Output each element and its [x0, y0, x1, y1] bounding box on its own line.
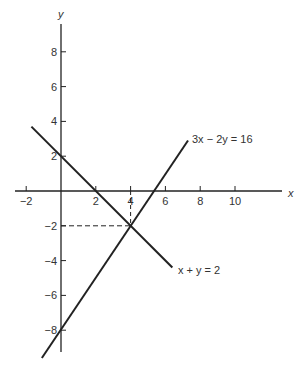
y-tick-label: 8 — [51, 46, 57, 58]
chart: −22468108642−2−4−6−8 y x 3x − 2y = 16 x … — [0, 0, 302, 367]
y-tick-label: −2 — [44, 220, 57, 232]
x-tick-label: 8 — [197, 195, 203, 207]
x-tick-label: 6 — [162, 195, 168, 207]
x-tick-label: 2 — [93, 195, 99, 207]
line-label-3x-2y-16: 3x − 2y = 16 — [192, 133, 253, 145]
y-tick-label: 6 — [51, 81, 57, 93]
x-tick-label: 10 — [229, 195, 241, 207]
y-tick-label: 4 — [51, 115, 57, 127]
y-axis-label: y — [57, 8, 65, 20]
labels: y x 3x − 2y = 16 x + y = 2 — [57, 8, 294, 276]
axes — [15, 24, 282, 352]
y-tick-label: −4 — [44, 255, 57, 267]
y-tick-label: −8 — [44, 324, 57, 336]
x-tick-label: −2 — [20, 195, 33, 207]
line-label-x-y-2: x + y = 2 — [178, 264, 220, 276]
line-3x-minus-2y-16 — [42, 141, 188, 359]
y-tick-label: −6 — [44, 289, 57, 301]
x-axis-label: x — [287, 187, 294, 199]
